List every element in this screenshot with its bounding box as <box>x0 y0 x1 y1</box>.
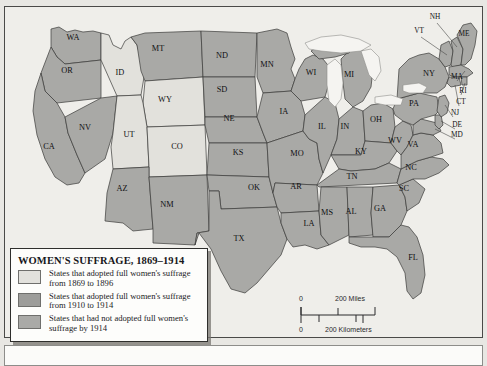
state-label-RI: RI <box>459 86 467 95</box>
state-label-IN: IN <box>341 122 350 131</box>
state-CO <box>147 125 207 177</box>
state-label-NH: NH <box>430 12 441 21</box>
legend-label-no-suffrage: States that had not adopted full women's… <box>49 314 188 333</box>
state-label-KS: KS <box>233 148 244 157</box>
state-MT <box>131 31 203 81</box>
scale-miles-label: 200 Miles <box>335 295 365 302</box>
state-label-SD: SD <box>217 85 228 94</box>
state-label-MO: MO <box>290 149 303 158</box>
legend-line2: from 1869 to 1896 <box>49 278 113 288</box>
legend-item-early-suffrage: States that adopted full women's suffrag… <box>18 269 201 288</box>
state-AZ <box>105 167 153 231</box>
state-label-MI: MI <box>344 70 354 79</box>
state-label-OK: OK <box>248 183 260 192</box>
state-label-DE: DE <box>452 120 462 129</box>
legend-item-no-suffrage: States that had not adopted full women's… <box>18 314 201 333</box>
state-label-NM: NM <box>160 200 174 209</box>
legend-line1: States that adopted full women's suffrag… <box>49 268 190 278</box>
state-label-AL: AL <box>345 207 356 216</box>
state-label-WI: WI <box>306 68 317 77</box>
legend-rows: States that adopted full women's suffrag… <box>11 269 207 334</box>
state-label-MN: MN <box>260 60 273 69</box>
bottom-caption-strip <box>4 345 483 366</box>
state-label-TX: TX <box>233 234 244 243</box>
state-label-FL: FL <box>408 253 418 262</box>
state-ND <box>201 31 257 77</box>
state-label-MA: MA <box>451 72 463 81</box>
state-label-KY: KY <box>355 147 367 156</box>
legend-label-late-suffrage: States that adopted full women's suffrag… <box>49 292 190 311</box>
legend-line1: States that adopted full women's suffrag… <box>49 291 190 301</box>
scale-km-zero: 0 <box>299 326 303 333</box>
state-label-OH: OH <box>370 115 382 124</box>
legend-swatch-no-suffrage <box>18 315 41 329</box>
state-label-WY: WY <box>158 95 172 104</box>
state-label-NJ: NJ <box>451 108 459 117</box>
state-NE <box>205 117 267 143</box>
state-label-ND: ND <box>216 51 228 60</box>
state-label-WV: WV <box>388 136 402 145</box>
state-label-OR: OR <box>61 66 73 75</box>
state-label-WA: WA <box>67 33 80 42</box>
scale-km-label: 200 Kilometers <box>325 326 372 333</box>
state-label-GA: GA <box>374 204 386 213</box>
state-label-TN: TN <box>346 172 357 181</box>
map-screenshot: WAORCANVIDMTWYUTCOAZNMNDSDNEKSOKTXMNIAMO… <box>0 0 487 366</box>
state-label-ID: ID <box>116 68 125 77</box>
scale-bar-graphic <box>299 305 407 327</box>
lake-michigan <box>327 59 343 107</box>
state-label-LA: LA <box>303 219 314 228</box>
state-label-NE: NE <box>223 114 234 123</box>
state-label-MT: MT <box>152 44 164 53</box>
state-label-CT: CT <box>456 97 466 106</box>
scale-bar: 0 200 Miles 0 200 Kilometers <box>299 295 407 335</box>
state-label-CA: CA <box>43 142 55 151</box>
legend-swatch-late-suffrage <box>18 293 41 307</box>
legend-label-early-suffrage: States that adopted full women's suffrag… <box>49 269 190 288</box>
state-label-AZ: AZ <box>116 184 127 193</box>
state-label-NY: NY <box>423 69 435 78</box>
state-label-NC: NC <box>405 163 417 172</box>
state-label-VA: VA <box>408 140 419 149</box>
state-label-UT: UT <box>123 130 134 139</box>
state-label-IL: IL <box>318 122 326 131</box>
state-label-ME: ME <box>459 29 470 38</box>
map-legend: WOMEN'S SUFFRAGE, 1869–1914 States that … <box>10 248 208 342</box>
state-label-MD: MD <box>451 130 463 139</box>
legend-line2: suffrage by 1914 <box>49 323 107 333</box>
state-label-PA: PA <box>409 99 419 108</box>
legend-item-late-suffrage: States that adopted full women's suffrag… <box>18 292 201 311</box>
scale-miles-zero: 0 <box>299 295 303 302</box>
state-label-SC: SC <box>399 184 410 193</box>
state-label-VT: VT <box>414 26 424 35</box>
state-label-AR: AR <box>290 182 302 191</box>
legend-swatch-early-suffrage <box>18 270 41 284</box>
legend-line1: States that had not adopted full women's <box>49 313 188 323</box>
legend-title: WOMEN'S SUFFRAGE, 1869–1914 <box>11 249 207 269</box>
state-label-NV: NV <box>79 123 91 132</box>
state-SD <box>203 77 257 117</box>
state-WY <box>143 77 205 127</box>
state-label-IA: IA <box>280 107 289 116</box>
state-label-CO: CO <box>171 142 183 151</box>
legend-line2: from 1910 to 1914 <box>49 300 113 310</box>
state-label-MS: MS <box>321 208 333 217</box>
